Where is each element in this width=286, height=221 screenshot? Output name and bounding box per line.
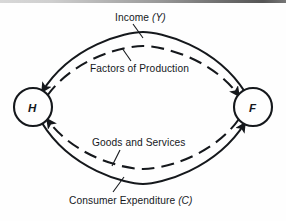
expenditure-arc: [42, 123, 245, 184]
leader-line-factors: [122, 48, 131, 61]
label-income-italic: (Y): [152, 12, 166, 23]
label-factors-of-production: Factors of Production: [90, 63, 189, 74]
label-consumer-expenditure: Consumer Expenditure (C): [69, 195, 193, 206]
circular-flow-diagram: [0, 0, 286, 221]
label-consumer-italic: (C): [178, 195, 192, 206]
income-arc: [42, 32, 245, 92]
flow-expenditure-solid: [42, 123, 245, 184]
label-factors-plain: Factors of Production: [90, 63, 189, 74]
flow-income-solid: [42, 32, 245, 92]
label-goods-and-services: Goods and Services: [92, 137, 186, 148]
label-goods-plain: Goods and Services: [92, 137, 186, 148]
node-firms-label: F: [249, 102, 256, 114]
label-income-plain: Income: [115, 12, 152, 23]
leader-line-goods: [112, 150, 120, 166]
node-households-label: H: [28, 102, 36, 114]
label-consumer-plain: Consumer Expenditure: [69, 195, 178, 206]
figure-canvas: H F Income (Y) Factors of Production Goo…: [0, 0, 286, 221]
label-income: Income (Y): [115, 12, 166, 23]
